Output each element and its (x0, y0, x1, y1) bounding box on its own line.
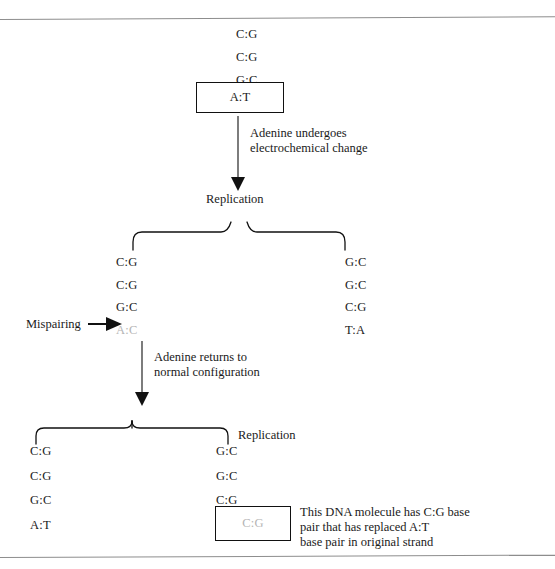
boxed-pair-rest: :T (239, 90, 251, 105)
replication-split-brackets (133, 222, 345, 250)
boxed-pair-adenine-thymine: A:T (196, 82, 284, 113)
final-left-pair-1: C:G (30, 445, 51, 458)
top-pair-1: C:G (236, 28, 257, 41)
mispairing-label: Mispairing (26, 317, 81, 333)
arrow-adenine-change (231, 116, 245, 191)
arrow-adenine-returns (135, 341, 149, 406)
daughter-left-pair-3: G:C (116, 301, 137, 314)
bottom-divider-rule (0, 555, 555, 558)
daughter-right-pair-2: G:C (345, 279, 366, 292)
boxed-pair-cytosine-guanine: C:G (215, 506, 291, 541)
caption-adenine-change-line2: electrochemical change (250, 141, 368, 157)
final-left-pair-4: A:T (30, 519, 51, 532)
daughter-left-mismatch-pair: A:C (116, 324, 137, 337)
daughter-right-pair-1: G:C (345, 256, 366, 269)
final-right-pair-2: G:C (216, 470, 237, 483)
annotation-line1: This DNA molecule has C:G base (300, 505, 470, 521)
boxed-pair-highlight-letter: A (230, 90, 239, 105)
annotation-line2: pair that has replaced A:T (300, 520, 429, 536)
caption-adenine-change-line1: Adenine undergoes (250, 126, 347, 142)
final-right-pair-3: C:G (216, 494, 237, 507)
top-pair-2: C:G (236, 51, 257, 64)
daughter-left-pair-1: C:G (116, 256, 137, 269)
final-right-pair-1: G:C (216, 445, 237, 458)
daughter-left-pair-2: C:G (116, 279, 137, 292)
annotation-line3: base pair in original strand (300, 535, 433, 551)
caption-adenine-returns-line2: normal configuration (154, 365, 260, 381)
replication-brace (36, 421, 228, 444)
daughter-right-pair-4: T:A (345, 324, 365, 337)
daughter-right-pair-3: C:G (345, 301, 366, 314)
final-left-pair-3: G:C (30, 494, 51, 507)
top-divider-rule (0, 16, 555, 20)
caption-adenine-returns-line1: Adenine returns to (154, 350, 247, 366)
replication-label-1: Replication (206, 192, 264, 208)
replication-label-2: Replication (238, 428, 296, 444)
final-left-pair-2: C:G (30, 470, 51, 483)
